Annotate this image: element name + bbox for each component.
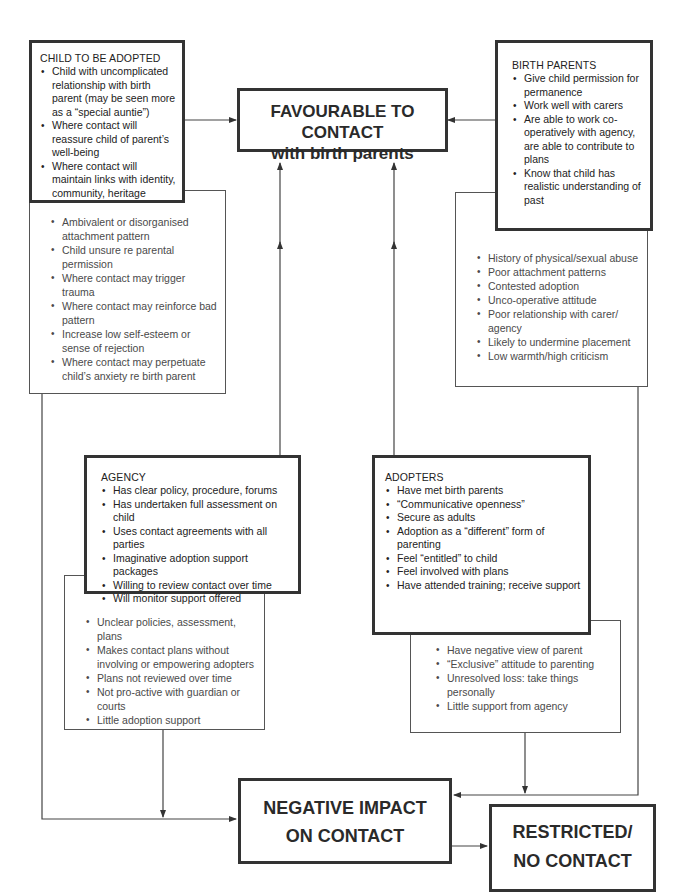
restricted-line1: RESTRICTED/ (492, 818, 653, 847)
list-item: Imaginative adoption support packages (101, 552, 294, 579)
list-item: Little adoption support (85, 713, 260, 727)
favourable-line1: FAVOURABLE TO CONTACT (240, 101, 445, 143)
list-item: Contested adoption (476, 279, 643, 293)
list-item: Give child permission for permanence (512, 72, 646, 99)
child-negative-list: Ambivalent or disorganised attachment pa… (50, 215, 219, 383)
negative-line1: NEGATIVE IMPACT (241, 794, 449, 822)
adopters-positive-list: Have met birth parents “Communicative op… (385, 484, 584, 592)
child-negative-factors-box: Ambivalent or disorganised attachment pa… (29, 190, 226, 394)
list-item: Unco-operative attitude (476, 293, 643, 307)
list-item: “Exclusive” attitude to parenting (435, 657, 616, 671)
list-item: Have attended training; receive support (385, 579, 584, 593)
list-item: Feel “entitled” to child (385, 552, 584, 566)
restricted-no-contact-box: RESTRICTED/ NO CONTACT (489, 804, 656, 892)
list-item: Increase low self-esteem or sense of rej… (50, 327, 219, 355)
list-item: Are able to work co-operatively with age… (512, 113, 646, 167)
negative-impact-box: NEGATIVE IMPACT ON CONTACT (238, 778, 452, 864)
list-item: History of physical/sexual abuse (476, 251, 643, 265)
list-item: Poor relationship with carer/ agency (476, 307, 643, 335)
list-item: Has undertaken full assessment on child (101, 498, 294, 525)
list-item: Have negative view of parent (435, 643, 616, 657)
list-item: Unclear policies, assessment, plans (85, 615, 260, 643)
agency-negative-list: Unclear policies, assessment, plans Make… (85, 615, 260, 727)
birth-parents-box: BIRTH PARENTS Give child permission for … (495, 40, 653, 231)
adopters-negative-list: Have negative view of parent “Exclusive”… (435, 643, 616, 713)
list-item: Poor attachment patterns (476, 265, 643, 279)
restricted-line2: NO CONTACT (492, 847, 653, 876)
list-item: Feel involved with plans (385, 565, 584, 579)
box-heading: BIRTH PARENTS (512, 59, 646, 71)
child-positive-list: Child with uncomplicated relationship wi… (40, 65, 176, 200)
birth-parents-negative-list: History of physical/sexual abuse Poor at… (476, 251, 643, 363)
list-item: Not pro-active with guardian or courts (85, 685, 260, 713)
list-item: Where contact may trigger trauma (50, 271, 219, 299)
list-item: “Communicative openness” (385, 498, 584, 512)
adopters-box: ADOPTERS Have met birth parents “Communi… (372, 455, 591, 635)
list-item: Adoption as a “different” form of parent… (385, 525, 584, 552)
list-item: Know that child has realistic understand… (512, 167, 646, 208)
list-item: Child with uncomplicated relationship wi… (40, 65, 176, 119)
list-item: Where contact will maintain links with i… (40, 160, 176, 201)
list-item: Little support from agency (435, 699, 616, 713)
list-item: Willing to review contact over time (101, 579, 294, 593)
list-item: Child unsure re parental permission (50, 243, 219, 271)
list-item: Low warmth/high criticism (476, 349, 643, 363)
list-item: Plans not reviewed over time (85, 671, 260, 685)
favourable-to-contact-box: FAVOURABLE TO CONTACT with birth parents (237, 88, 448, 152)
agency-box: AGENCY Has clear policy, procedure, foru… (84, 455, 301, 594)
list-item: Where contact may reinforce bad pattern (50, 299, 219, 327)
list-item: Where contact will reassure child of par… (40, 119, 176, 160)
list-item: Makes contact plans without involving or… (85, 643, 260, 671)
favourable-line2: with birth parents (240, 143, 445, 164)
list-item: Ambivalent or disorganised attachment pa… (50, 215, 219, 243)
adopters-negative-factors-box: Have negative view of parent “Exclusive”… (410, 620, 621, 733)
list-item: Work well with carers (512, 99, 646, 113)
box-heading: CHILD TO BE ADOPTED (40, 52, 176, 64)
list-item: Uses contact agreements with all parties (101, 525, 294, 552)
birth-parents-positive-list: Give child permission for permanence Wor… (512, 72, 646, 207)
box-heading: ADOPTERS (385, 471, 584, 483)
list-item: Likely to undermine placement (476, 335, 643, 349)
box-heading: AGENCY (101, 471, 294, 483)
child-to-be-adopted-box: CHILD TO BE ADOPTED Child with uncomplic… (29, 40, 185, 203)
list-item: Have met birth parents (385, 484, 584, 498)
list-item: Secure as adults (385, 511, 584, 525)
list-item: Has clear policy, procedure, forums (101, 484, 294, 498)
negative-line2: ON CONTACT (241, 822, 449, 850)
list-item: Where contact may perpetuate child’s anx… (50, 355, 219, 383)
list-item: Will monitor support offered (101, 592, 294, 606)
list-item: Unresolved loss: take things personally (435, 671, 616, 699)
agency-positive-list: Has clear policy, procedure, forums Has … (101, 484, 294, 606)
